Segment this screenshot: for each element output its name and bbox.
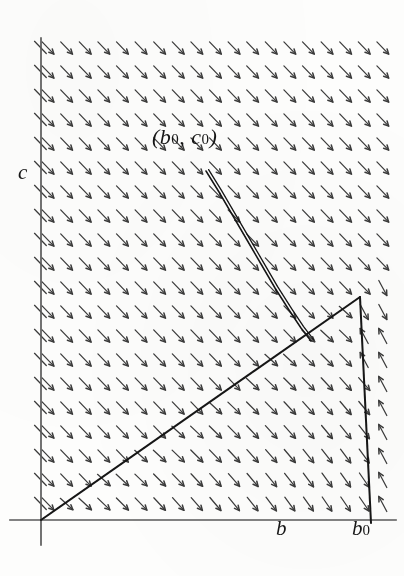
figure-background [0, 0, 404, 576]
phase-plane-figure [0, 0, 404, 576]
point-annotation-label: (b0, c0) [152, 124, 217, 150]
paren-open: ( [152, 124, 160, 149]
x-axis-label: b [276, 516, 287, 541]
x-axis-endpoint-sub: 0 [363, 522, 371, 538]
annotation-b: b [160, 124, 172, 149]
annotation-c: c [191, 124, 201, 149]
x-axis-endpoint-base: b [352, 516, 363, 540]
annotation-c-sub: 0 [202, 131, 210, 147]
x-axis-endpoint-label: b0 [352, 516, 370, 541]
paren-close: ) [210, 124, 218, 149]
y-axis-label: c [18, 160, 27, 185]
annotation-separator: , [179, 124, 191, 149]
